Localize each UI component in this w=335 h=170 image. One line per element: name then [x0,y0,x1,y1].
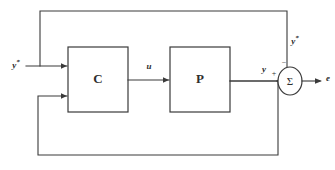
plant-output-label: y [261,64,267,74]
reference-input-superscript: * [16,58,20,66]
reference-input-wire [26,63,67,69]
plant-block: P [170,47,230,112]
diagram-canvas: C P Σ − + [0,0,335,170]
error-output-base: e [326,73,330,83]
plant-block-label: P [196,71,204,86]
controller-block-label: C [93,71,102,86]
reference-input-label: y* [11,58,20,70]
control-signal-label: u [146,61,151,71]
summing-junction-left-sign: + [272,69,277,78]
control-signal-base: u [146,61,151,71]
control-block-diagram: C P Σ − + [0,0,335,170]
error-output-label: e [326,73,330,83]
plant-output-base: y [261,64,267,74]
error-output-wire [302,78,322,84]
reference-feedback-label: y* [290,34,299,46]
summing-junction-label: Σ [287,75,293,87]
control-signal-wire [128,77,169,83]
reference-feedback-superscript: * [295,34,299,42]
plant-output-wire [230,80,279,83]
summing-junction-top-sign: − [282,58,287,67]
controller-block: C [68,47,128,112]
